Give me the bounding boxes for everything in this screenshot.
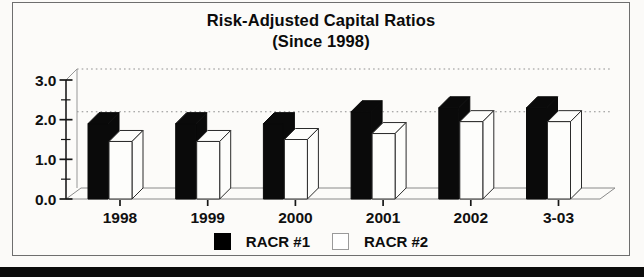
chart-title-line1: Risk-Adjusted Capital Ratios (13, 10, 629, 31)
chart-title-line2: (Since 1998) (13, 31, 629, 52)
chart-frame: Risk-Adjusted Capital Ratios (Since 1998… (12, 2, 630, 256)
racr2-swatch-icon (332, 233, 349, 250)
page-divider-bar (0, 267, 644, 277)
legend-label-racr1: RACR #1 (246, 233, 310, 250)
scanned-page: Risk-Adjusted Capital Ratios (Since 1998… (0, 0, 644, 277)
racr1-swatch-icon (214, 233, 231, 250)
legend-item-racr2: RACR #2 (332, 233, 428, 250)
chart-legend: RACR #1 RACR #2 (13, 233, 629, 250)
legend-item-racr1: RACR #1 (214, 233, 310, 250)
chart-title: Risk-Adjusted Capital Ratios (Since 1998… (13, 10, 629, 52)
legend-label-racr2: RACR #2 (364, 233, 428, 250)
